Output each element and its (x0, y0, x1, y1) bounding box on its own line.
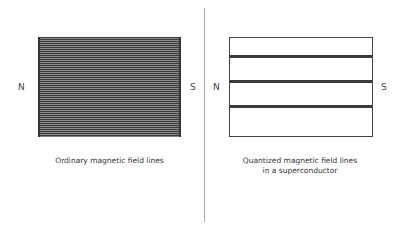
right-caption: Quantized magnetic field lines in a supe… (225, 156, 375, 176)
panel-divider (204, 8, 205, 222)
quantized-field-line (230, 105, 372, 108)
quantized-field-line (230, 55, 372, 58)
right-caption-line1: Quantized magnetic field lines (225, 156, 375, 166)
north-pole-label-right: N (213, 82, 220, 92)
quantized-field-line (230, 80, 372, 83)
north-pole-label-left: N (18, 82, 25, 92)
south-pole-label-right: S (381, 82, 387, 92)
ordinary-field-lines-box (38, 37, 181, 137)
left-caption: Ordinary magnetic field lines (38, 156, 181, 166)
quantized-field-lines-box (229, 37, 373, 137)
south-pole-label-left: S (190, 82, 196, 92)
right-caption-line2: in a superconductor (225, 166, 375, 176)
